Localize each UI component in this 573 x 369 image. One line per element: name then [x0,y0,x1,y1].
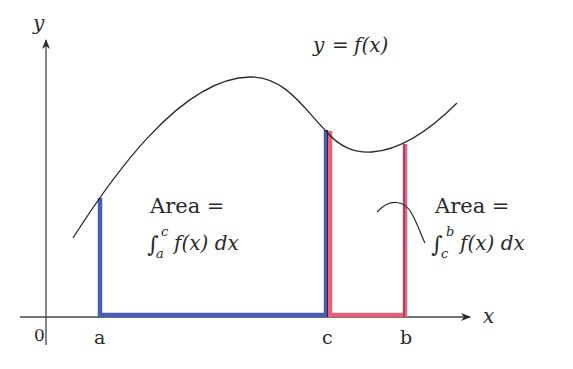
area-label-a-to-c: Area = ∫ c a f(x) dx [147,194,239,261]
y-axis-label: y [32,11,45,35]
region-a-to-c [100,130,326,315]
function-curve [73,77,457,238]
area-label-c-to-b: Area = ∫ b c f(x) dx [431,194,525,261]
svg-text:a: a [156,246,164,261]
point-label-a: a [94,326,105,348]
x-axis-label: x [483,304,494,328]
integral-diagram: y x 0 a c b y = f(x) Area = ∫ c a f(x) d… [0,0,573,369]
point-label-b: b [400,326,412,348]
curve-label: y = f(x) [312,33,388,57]
origin-label: 0 [34,325,45,345]
svg-text:c: c [441,246,449,261]
svg-text:c: c [161,224,169,239]
svg-text:f(x) dx: f(x) dx [458,231,525,255]
svg-text:=: = [332,33,349,57]
region-c-to-b [330,131,405,315]
svg-text:y: y [312,33,325,57]
svg-text:Area =: Area = [149,194,224,218]
callout-arc [377,202,425,243]
svg-text:Area =: Area = [434,194,509,218]
svg-text:f(x): f(x) [352,33,388,57]
svg-text:f(x) dx: f(x) dx [172,231,239,255]
svg-text:b: b [446,224,454,239]
point-label-c: c [322,326,333,348]
